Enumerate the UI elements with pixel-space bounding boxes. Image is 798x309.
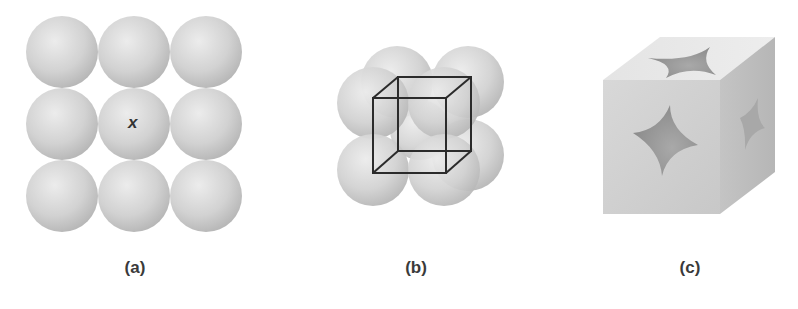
center-sphere-marker: x [128,113,137,133]
panel-c-cube [603,37,775,214]
panel-b-spheres [337,46,504,206]
panel-b-label: (b) [405,258,427,278]
panel-c-label: (c) [680,258,701,278]
figure-canvas [0,0,798,309]
panel-a-label: (a) [125,258,146,278]
